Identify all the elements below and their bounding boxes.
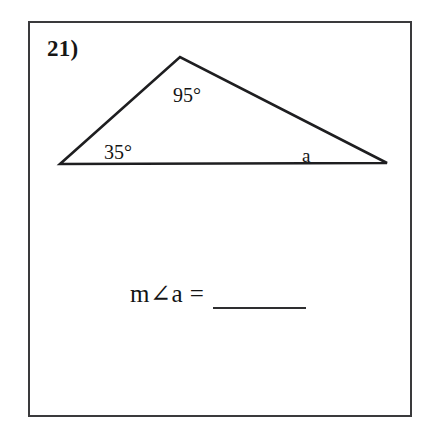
apex-angle-label: 95°: [173, 85, 201, 105]
left-angle-label: 35°: [104, 142, 132, 162]
triangle-diagram: 95° 35° a: [30, 23, 414, 203]
answer-blank-field[interactable]: [213, 307, 306, 309]
triangle-svg: [30, 23, 414, 203]
answer-prompt-label: m∠a =: [130, 281, 204, 310]
right-angle-label: a: [302, 146, 310, 165]
answer-row: m∠a =: [130, 281, 306, 310]
worksheet-problem-card: 21) 95° 35° a m∠a =: [28, 21, 412, 417]
